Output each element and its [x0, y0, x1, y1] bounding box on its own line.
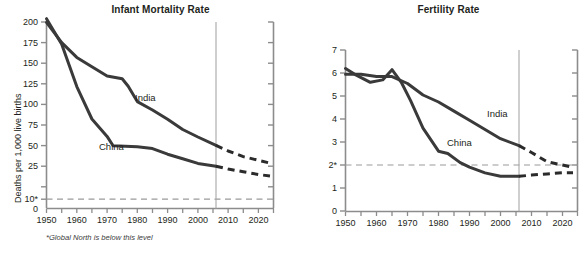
x-tick-label: 1980: [127, 215, 147, 225]
y-tick-label: 7: [332, 45, 337, 55]
curve-label-india-mortality: India: [135, 92, 156, 103]
y-tick-label: 75: [28, 120, 38, 130]
x-tick-label: 1950: [335, 218, 355, 228]
y-tick-label: 0: [332, 206, 337, 216]
x-tick-label: 2020: [248, 215, 268, 225]
x-tick-label: 2010: [218, 215, 238, 225]
x-tick-label: 1950: [36, 215, 56, 225]
y-tick-marks-right-mirror: [572, 50, 578, 188]
y-tick-label: 4: [332, 114, 337, 124]
x-tick-label: 1980: [428, 218, 448, 228]
x-tick-label: 1970: [397, 218, 417, 228]
series-projection-china-fertility: [519, 173, 573, 177]
y-tick-label: 100: [23, 99, 38, 109]
x-tick-label: 1990: [158, 215, 178, 225]
x-tick-label: 1970: [97, 215, 117, 225]
x-tick-label: 2000: [188, 215, 208, 225]
series-projection-india-mortality: [216, 145, 270, 163]
y-tick-label: 3: [332, 137, 337, 147]
y-tick-marks-left-mirror: [268, 22, 274, 187]
footnote-infant-mortality: *Global North is below this level: [46, 233, 153, 242]
y-tick-label: 1: [332, 183, 337, 193]
panel-fertility: Fertility Rate Children per woman: [291, 0, 582, 264]
curve-label-india-fertility: India: [487, 108, 508, 119]
y-tick-label: 0: [33, 204, 38, 214]
y-tick-label: 150: [23, 58, 38, 68]
y-tick-label: 125: [23, 79, 38, 89]
x-tick-label: 1960: [67, 215, 87, 225]
series-line-india-mortality: [47, 22, 217, 145]
y-tick-marks-left: [41, 22, 47, 199]
plot-area-fertility: 7 6 5 4 3 2* 1 0: [291, 0, 582, 264]
y-tick-label: 6: [332, 68, 337, 78]
y-tick-label: 175: [23, 38, 38, 48]
x-tick-label: 2010: [521, 218, 541, 228]
x-tick-label: 2020: [552, 218, 572, 228]
y-tick-label: 200: [23, 17, 38, 27]
y-tick-label: 2*: [328, 160, 337, 170]
y-tick-label: 5: [332, 91, 337, 101]
dual-line-chart-figure: Infant Mortality Rate Deaths per 1,000 l…: [0, 0, 582, 264]
series-projection-india-fertility: [519, 146, 573, 168]
x-tick-label: 2000: [490, 218, 510, 228]
x-tick-label: 1960: [366, 218, 386, 228]
curve-label-china-mortality: China: [99, 141, 125, 152]
curve-label-china-fertility: China: [447, 137, 473, 148]
y-tick-label: 25: [28, 161, 38, 171]
series-line-china-fertility: [346, 69, 520, 177]
series-projection-china-mortality: [216, 166, 270, 176]
x-tick-label: 1990: [459, 218, 479, 228]
plot-area-infant-mortality: 200 175 150 125 100 75 50 25 10* 0: [0, 0, 291, 264]
y-tick-label: 50: [28, 141, 38, 151]
panel-infant-mortality: Infant Mortality Rate Deaths per 1,000 l…: [0, 0, 291, 264]
